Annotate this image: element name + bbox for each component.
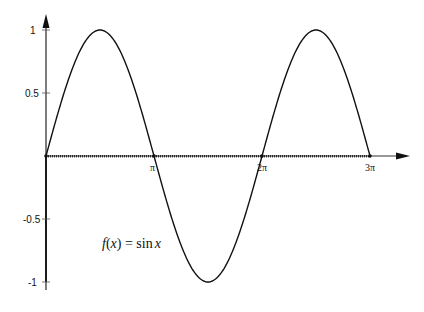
y-axis-arrow-icon — [43, 14, 50, 28]
y-axis — [42, 14, 50, 290]
x-tick-label-3pi: 3π — [365, 162, 375, 173]
sine-plot: 1 0.5 -0.5 -1 π 2π 3π f(x) = sinx — [0, 0, 424, 312]
y-tick-label-1: 1 — [30, 25, 36, 36]
y-tick-label-minus-1: -1 — [28, 277, 37, 288]
x-tick-label-pi: π — [150, 162, 155, 173]
zero-point-marker — [44, 154, 48, 158]
zero-point-marker — [368, 154, 372, 158]
zero-point-marker — [260, 154, 264, 158]
x-axis-arrow-icon — [396, 153, 410, 160]
function-label: f(x) = sinx — [102, 236, 162, 252]
x-axis-dotted-segment — [46, 155, 370, 157]
y-tick-label-0.5: 0.5 — [25, 88, 39, 99]
zero-point-marker — [152, 154, 156, 158]
x-axis — [46, 153, 410, 160]
y-tick-label-minus-0.5: -0.5 — [23, 214, 41, 225]
